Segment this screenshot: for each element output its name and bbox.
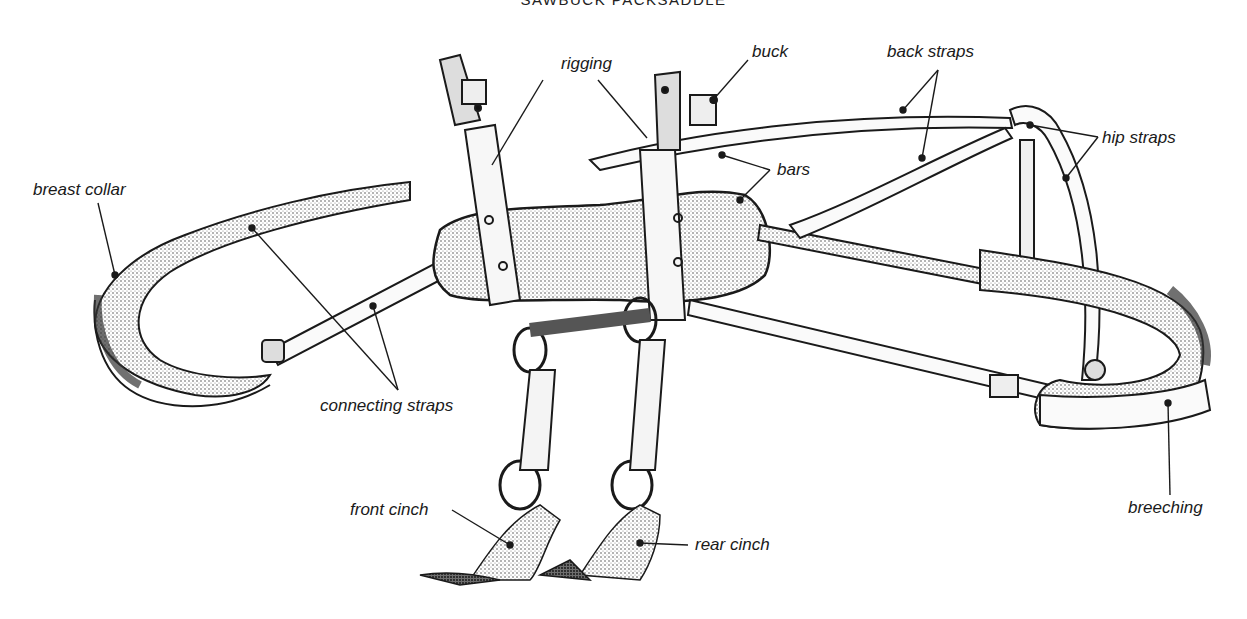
cinch-rings-shape (500, 298, 656, 509)
label-front-cinch: front cinch (350, 500, 428, 520)
breast-collar-shape (94, 182, 410, 406)
cinches-shape (420, 505, 660, 585)
label-bars: bars (777, 160, 810, 180)
cinch-straps-shape (520, 340, 665, 470)
label-buck: buck (752, 42, 788, 62)
label-back-straps: back straps (887, 42, 974, 62)
leader-lines (98, 60, 1171, 548)
label-rear-cinch: rear cinch (695, 535, 770, 555)
label-breeching: breeching (1128, 498, 1203, 518)
label-hip-straps: hip straps (1102, 128, 1176, 148)
label-connecting-straps: connecting straps (320, 396, 453, 416)
label-rigging: rigging (561, 54, 612, 74)
label-breast-collar: breast collar (33, 180, 126, 200)
packsaddle-illustration (0, 0, 1247, 619)
